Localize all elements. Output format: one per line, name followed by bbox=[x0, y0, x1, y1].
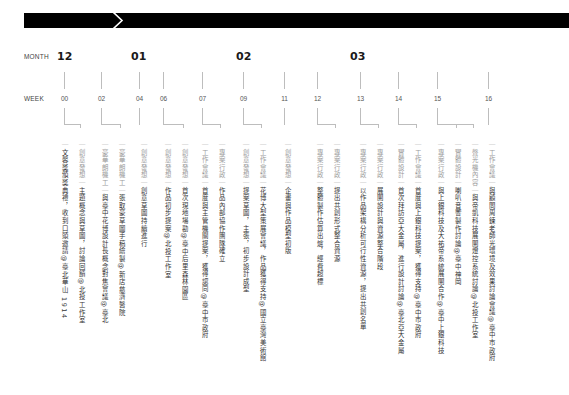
week-stem bbox=[437, 108, 438, 125]
week-tick bbox=[398, 72, 399, 89]
entry-marker: ｜ bbox=[217, 141, 225, 149]
entry-category: 專案行政 bbox=[315, 149, 323, 179]
entry-text: 張取豪草圖手稿繪製@新店慈濟醫院 bbox=[117, 194, 125, 316]
entry-text: 首次現地場勘@臺中后里森林園區 bbox=[180, 187, 188, 301]
month-label: 02 bbox=[236, 50, 251, 63]
entry-category: 專案行政 bbox=[358, 149, 366, 179]
branch-drop bbox=[183, 124, 184, 128]
entry-separator: ｜ bbox=[487, 179, 495, 187]
entry-text: 作品初步提案@北投工作室 bbox=[163, 187, 171, 279]
entry-text: 提案草圖，主張，初步設計成型 bbox=[241, 187, 249, 293]
timeline-entry: ｜工作會議｜花博大型策展會議，作品獲得支持@國立臺灣美術館 bbox=[258, 141, 266, 362]
week-tick bbox=[64, 72, 65, 89]
entry-separator: ｜ bbox=[200, 179, 208, 187]
week-tick bbox=[317, 72, 318, 89]
branch-drop bbox=[456, 124, 457, 128]
entry-text: 提出共創形式整合資源 bbox=[332, 187, 340, 263]
entry-category: 專案行政 bbox=[436, 149, 444, 179]
entry-separator: ｜ bbox=[180, 179, 188, 187]
entry-separator: ｜ bbox=[163, 179, 171, 187]
month-label: 01 bbox=[131, 50, 146, 63]
entry-separator: ｜ bbox=[258, 179, 266, 187]
week-tick bbox=[243, 72, 244, 89]
week-tick bbox=[139, 72, 140, 89]
entry-category: 豪華朗機工 bbox=[117, 149, 125, 187]
week-tick bbox=[488, 72, 489, 89]
week-tick bbox=[284, 72, 285, 89]
week-branch-line bbox=[243, 124, 261, 125]
entry-marker: ｜ bbox=[117, 141, 125, 149]
week-stem bbox=[284, 108, 285, 125]
week-branch-line bbox=[437, 124, 473, 125]
entry-text: 喇叭音響製作討論@臺中神岡 bbox=[453, 187, 461, 286]
entry-marker: ｜ bbox=[396, 141, 404, 149]
week-label: 12 bbox=[314, 95, 321, 102]
entry-separator: ｜ bbox=[436, 179, 444, 187]
entry-text: 創意草圖持續進行 bbox=[139, 187, 147, 248]
timeline-entry: ｜工作會議｜首度與主管機關提案，獲得認同@臺中市政府 bbox=[200, 141, 208, 339]
entry-separator: ｜ bbox=[77, 179, 85, 187]
entry-separator: ｜ bbox=[241, 179, 249, 187]
week-stem bbox=[317, 108, 318, 125]
entry-marker: ｜ bbox=[413, 141, 421, 149]
entry-separator: ｜ bbox=[139, 179, 147, 187]
week-branch-line bbox=[202, 124, 220, 125]
entry-marker: ｜ bbox=[487, 141, 495, 149]
week-stem bbox=[64, 108, 65, 125]
entry-separator: ｜ bbox=[375, 179, 383, 187]
entry-category: 專案行政 bbox=[217, 149, 225, 179]
entry-text: 企畫與作品模型初版 bbox=[283, 187, 291, 255]
entry-category: 實體設計 bbox=[396, 149, 404, 179]
branch-drop bbox=[120, 124, 121, 128]
entry-marker: ｜ bbox=[436, 141, 444, 149]
week-branch-line bbox=[163, 124, 183, 125]
week-label: 07 bbox=[199, 95, 206, 102]
week-stem bbox=[243, 108, 244, 125]
entry-marker: ｜ bbox=[180, 141, 188, 149]
entry-marker: ｜ bbox=[241, 141, 249, 149]
entry-text: 與上銀科技及大祐帝系統展開合作@臺中上銀科技 bbox=[436, 187, 444, 355]
timeline-entry: ｜文馨獎頒獎典禮，收到口頭邀請@臺北華山 1914 bbox=[60, 141, 68, 320]
month-label: 03 bbox=[350, 50, 365, 63]
week-label: 04 bbox=[136, 95, 143, 102]
entry-separator: ｜ bbox=[413, 179, 421, 187]
entry-text: 首度與主管機關提案，獲得認同@臺中市政府 bbox=[200, 187, 208, 339]
week-stem bbox=[202, 108, 203, 125]
entry-marker: ｜ bbox=[332, 141, 340, 149]
week-branch-line bbox=[360, 124, 378, 125]
month-label: 12 bbox=[57, 50, 72, 63]
entry-marker: ｜ bbox=[139, 141, 147, 149]
entry-marker: ｜ bbox=[163, 141, 171, 149]
timeline-entry: ｜聲光機內容｜與帝凱科技展開燈控系統討論@北投工作室 bbox=[470, 141, 478, 339]
entry-marker: ｜ bbox=[470, 141, 478, 149]
entry-separator: ｜ bbox=[283, 179, 291, 187]
timeline-entry: ｜工作會議｜首度與上銀科技提案，獲得支持@臺中市政府 bbox=[413, 141, 421, 339]
entry-text: 文馨獎頒獎典禮，收到口頭邀請@臺北華山 1914 bbox=[60, 149, 68, 320]
week-stem bbox=[360, 108, 361, 125]
entry-category: 工作會議 bbox=[487, 149, 495, 179]
branch-drop bbox=[80, 124, 81, 128]
week-branch-line bbox=[317, 124, 335, 125]
week-tick bbox=[101, 72, 102, 89]
branch-drop bbox=[473, 124, 474, 128]
timeline-entry: ｜實體設計｜首次拜訪亞大金屬，進行設計討論@臺北亞大金屬 bbox=[396, 141, 404, 354]
entry-text: 整體製作估算出爐，經費超標 bbox=[315, 187, 323, 286]
entry-category: 創意發想 bbox=[139, 149, 147, 179]
timeline-arrow-banner bbox=[24, 13, 569, 28]
branch-drop bbox=[220, 124, 221, 128]
entry-text: 以作品架構分析可行性資源，提出共創名單 bbox=[358, 187, 366, 331]
week-branch-line bbox=[101, 124, 120, 125]
entry-marker: ｜ bbox=[375, 141, 383, 149]
week-tick bbox=[437, 72, 438, 89]
week-stem bbox=[139, 108, 140, 125]
entry-text: 首次拜訪亞大金屬，進行設計討論@臺北亞大金屬 bbox=[396, 187, 404, 355]
entry-separator: ｜ bbox=[315, 179, 323, 187]
entry-category: 豪華朗機工 bbox=[100, 149, 108, 187]
week-label: 14 bbox=[395, 95, 402, 102]
week-label: 16 bbox=[485, 95, 492, 102]
entry-category: 創意發想 bbox=[283, 149, 291, 179]
entry-category: 工作會議 bbox=[413, 149, 421, 179]
entry-category: 專案行政 bbox=[375, 149, 383, 179]
entry-category: 工作會議 bbox=[258, 149, 266, 179]
entry-separator: ｜ bbox=[453, 179, 461, 187]
